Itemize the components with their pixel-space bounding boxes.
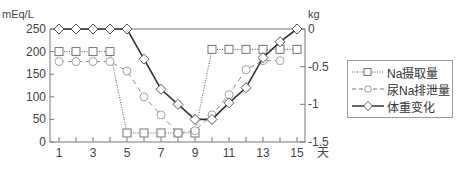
- y-right-tick-label: -0.5: [308, 60, 329, 74]
- x-tick-label: 1: [56, 146, 63, 160]
- square-marker-icon: [352, 67, 384, 77]
- series-diamond: [54, 24, 302, 124]
- y-right-axis-label: kg: [308, 8, 320, 20]
- y-left-tick-label: 100: [26, 90, 46, 104]
- y-right-tick-label: -1: [308, 97, 319, 111]
- line-chart: 13579111315天250200150100500mEq/L0-0.5-1-…: [0, 0, 340, 170]
- y-left-tick-label: 250: [26, 22, 46, 36]
- legend-item-na-intake: Na摄取量: [352, 64, 438, 80]
- y-left-tick-label: 50: [33, 112, 47, 126]
- x-tick-label: 9: [192, 146, 199, 160]
- chart-axes: 13579111315天250200150100500mEq/L0-0.5-1-…: [2, 8, 329, 160]
- y-right-tick-label: 0: [308, 22, 315, 36]
- chart-legend: Na摄取量 尿Na排泄量 体重变化: [347, 60, 453, 118]
- y-right-tick-label: -1.5: [308, 135, 329, 149]
- legend-label: 体重变化: [387, 98, 435, 115]
- y-left-tick-label: 0: [39, 135, 46, 149]
- chart-series: [54, 24, 302, 137]
- x-tick-label: 15: [290, 146, 304, 160]
- x-tick-label: 7: [158, 146, 165, 160]
- y-left-tick-label: 150: [26, 67, 46, 81]
- legend-label: Na摄取量: [387, 64, 438, 81]
- x-tick-label: 3: [90, 146, 97, 160]
- legend-label: 尿Na排泄量: [387, 81, 450, 98]
- y-left-axis-label: mEq/L: [2, 8, 34, 20]
- legend-item-urine-na: 尿Na排泄量: [352, 81, 450, 97]
- x-tick-label: 5: [124, 146, 131, 160]
- x-tick-label: 11: [223, 146, 236, 160]
- diamond-marker-icon: [352, 101, 384, 111]
- x-tick-label: 13: [256, 146, 270, 160]
- legend-item-weight: 体重变化: [352, 98, 435, 114]
- circle-marker-icon: [352, 84, 384, 94]
- y-left-tick-label: 200: [26, 45, 46, 59]
